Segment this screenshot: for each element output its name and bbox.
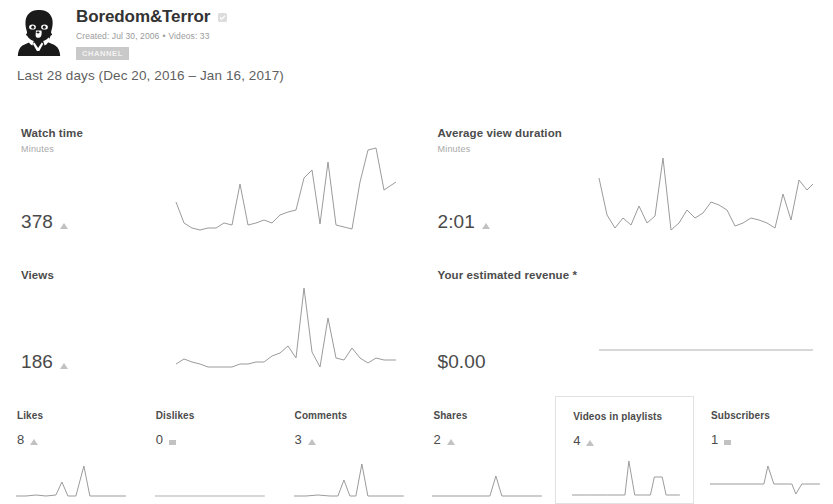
metric-value: $0.00 [438, 352, 486, 372]
triangle-up-icon [60, 363, 68, 369]
secondary-metrics-grid: Likes 8 Dislikes 0 [0, 396, 833, 504]
avatar[interactable] [14, 6, 64, 56]
separator-dot: • [162, 31, 165, 41]
metric-value: 4 [573, 434, 580, 448]
channel-created: Created: Jul 30, 2006 [76, 31, 159, 41]
sparkline-videos-in-playlists [570, 457, 683, 499]
date-range-label[interactable]: Last 28 days (Dec 20, 2016 – Jan 16, 201… [17, 68, 284, 83]
channel-meta: Boredom&Terror Created: Jul 30, 2006•Vid… [76, 6, 228, 60]
metric-card-dislikes[interactable]: Dislikes 0 [139, 396, 278, 504]
channel-subinfo: Created: Jul 30, 2006•Videos: 33 [76, 31, 228, 42]
channel-type-badge: CHANNEL [76, 47, 129, 60]
metric-value: 8 [17, 433, 24, 447]
metric-title: Shares [433, 410, 545, 422]
metric-title: Subscribers [711, 410, 823, 422]
triangle-up-icon [308, 439, 316, 445]
flat-dash-icon [724, 440, 731, 445]
metric-card-shares[interactable]: Shares 2 [416, 396, 555, 504]
metric-value-row: $0.00 [438, 352, 486, 372]
metric-value-row: 8 [17, 433, 129, 447]
metric-value-row: 3 [295, 433, 407, 447]
sparkline-dislikes [153, 458, 268, 500]
metric-card-estimated-revenue[interactable]: Your estimated revenue * $0.00 [417, 252, 833, 392]
channel-video-count: Videos: 33 [168, 31, 209, 41]
metric-value-row: 378 [21, 212, 68, 232]
metric-card-likes[interactable]: Likes 8 [0, 396, 139, 504]
sparkline-comments [292, 458, 407, 500]
metric-value-row: 1 [711, 433, 823, 447]
metric-card-videos-in-playlists[interactable]: Videos in playlists 4 [555, 396, 694, 504]
channel-title: Boredom&Terror [76, 7, 210, 27]
metric-value: 2 [433, 433, 440, 447]
metric-value-row: 4 [573, 434, 683, 448]
metric-title: Dislikes [156, 410, 268, 422]
triangle-up-icon [586, 440, 594, 446]
metric-value: 1 [711, 433, 718, 447]
metric-value: 2:01 [438, 212, 475, 232]
triangle-up-icon [482, 223, 490, 229]
metric-value: 3 [295, 433, 302, 447]
sparkline-shares [430, 458, 545, 500]
metric-card-subscribers[interactable]: Subscribers 1 [694, 396, 833, 504]
flat-dash-icon [169, 440, 176, 445]
metric-value: 378 [21, 212, 53, 232]
metric-title: Videos in playlists [573, 411, 683, 423]
sparkline-average-view-duration [597, 140, 815, 238]
metric-value-row: 2:01 [438, 212, 490, 232]
triangle-up-icon [60, 223, 68, 229]
metric-value: 0 [156, 433, 163, 447]
metric-value-row: 0 [156, 433, 268, 447]
metric-value-row: 186 [21, 352, 68, 372]
metric-title: Average view duration [438, 126, 816, 140]
metric-title: Likes [17, 410, 129, 422]
metric-value-row: 2 [433, 433, 545, 447]
metric-card-views[interactable]: Views 186 [0, 252, 417, 392]
sparkline-subscribers [708, 458, 823, 500]
triangle-up-icon [447, 439, 455, 445]
metric-title: Comments [295, 410, 407, 422]
metric-title: Watch time [21, 126, 399, 140]
channel-title-row: Boredom&Terror [76, 7, 228, 27]
metric-card-comments[interactable]: Comments 3 [278, 396, 417, 504]
metric-card-average-view-duration[interactable]: Average view duration Minutes 2:01 [417, 110, 833, 252]
verified-badge-icon [217, 12, 228, 23]
primary-metrics-grid: Watch time Minutes 378 Average view dura… [0, 110, 833, 392]
sparkline-watch-time [174, 140, 399, 238]
sparkline-estimated-revenue [597, 280, 815, 378]
sparkline-views [174, 280, 399, 378]
metric-card-watch-time[interactable]: Watch time Minutes 378 [0, 110, 417, 252]
channel-header: Boredom&Terror Created: Jul 30, 2006•Vid… [14, 6, 228, 60]
sparkline-likes [14, 458, 129, 500]
analytics-dashboard: Boredom&Terror Created: Jul 30, 2006•Vid… [0, 0, 833, 504]
triangle-up-icon [30, 439, 38, 445]
primary-metrics-row-1: Watch time Minutes 378 Average view dura… [0, 110, 833, 252]
metric-value: 186 [21, 352, 53, 372]
primary-metrics-row-2: Views 186 Your estimated revenue * $0.00 [0, 252, 833, 392]
